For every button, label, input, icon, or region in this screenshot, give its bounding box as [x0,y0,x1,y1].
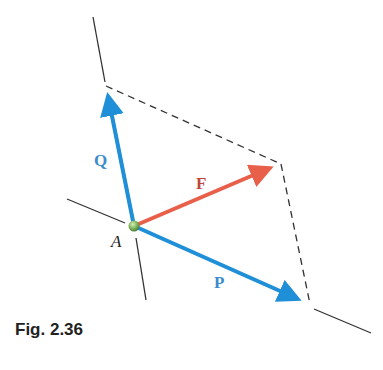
line-of-action-left [67,199,125,223]
label-f: F [196,175,206,192]
force-diagram [0,0,383,370]
dashed-side-right [281,164,310,304]
label-a: A [111,233,121,250]
figure-caption: Fig. 2.36 [15,321,83,338]
dashed-side-top [106,86,281,164]
vector-q-arrow [108,96,134,226]
line-of-action-lower [136,238,146,300]
label-q: Q [94,152,107,169]
line-of-action-q [93,17,105,82]
particle-a [129,221,140,232]
label-p: P [214,274,224,291]
line-of-action-p [314,309,371,333]
